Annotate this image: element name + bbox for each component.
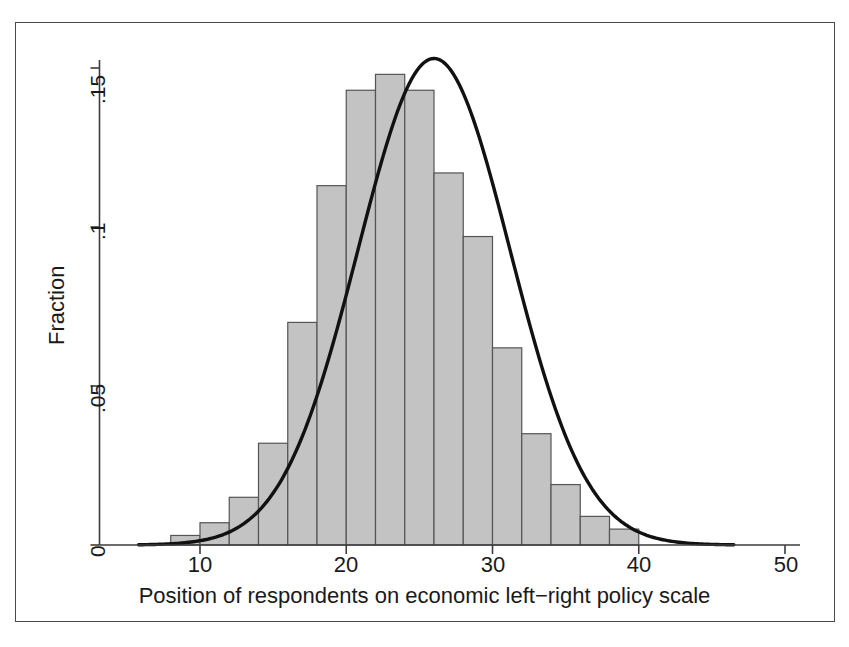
y-tick-label-05: .05 [86, 384, 110, 413]
figure-container: 0 .05 .1 .15 Fraction 10 20 30 40 50 Pos… [0, 0, 849, 647]
x-axis-title: Position of respondents on economic left… [0, 583, 849, 609]
histogram-bar [346, 90, 375, 545]
histogram-bars [171, 74, 639, 545]
histogram-bar [551, 485, 580, 545]
histogram-bar [463, 237, 492, 545]
x-tick-label-50: 50 [774, 552, 798, 578]
x-tick-label-40: 40 [627, 552, 651, 578]
histogram-bar [405, 90, 434, 545]
histogram-bar [493, 348, 522, 545]
x-tick-label-20: 20 [334, 552, 358, 578]
histogram-bar [522, 434, 551, 545]
y-tick-label-15: .15 [86, 75, 110, 104]
histogram-bar [229, 497, 258, 545]
y-tick-label-0: 0 [86, 545, 110, 557]
x-tick-label-10: 10 [188, 552, 212, 578]
histogram-bar [434, 173, 463, 545]
x-tick-label-30: 30 [481, 552, 505, 578]
histogram-plot [0, 0, 849, 647]
y-tick-label-1: .1 [86, 222, 110, 240]
histogram-bar [376, 74, 405, 545]
y-axis-title: Fraction [44, 266, 70, 345]
histogram-bar [317, 186, 346, 545]
histogram-bar [580, 516, 609, 545]
